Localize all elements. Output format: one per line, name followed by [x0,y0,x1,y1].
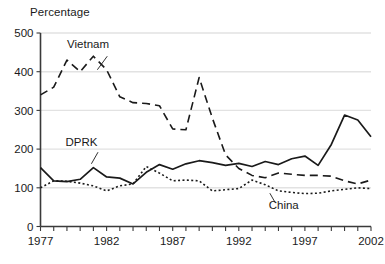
series-label-vietnam: Vietnam [67,38,109,50]
y-tick-label-300: 300 [14,105,33,117]
y-tick-label-500: 500 [14,27,33,39]
series-group [41,56,372,193]
y-tick-labels-group: 0100200300400500 [14,27,33,233]
x-tick-label-1997: 1997 [292,235,318,247]
y-tick-label-0: 0 [27,221,33,233]
tickmarks-group [37,33,372,231]
x-tick-label-1992: 1992 [226,235,252,247]
leader-line-dprk [91,152,98,164]
series-label-china: China [269,199,300,211]
x-tick-label-2002: 2002 [358,235,384,247]
line-chart-plot: 0100200300400500 19771982198719921997200… [0,0,385,264]
gridlines-group [41,33,372,188]
series-line-vietnam [41,56,372,184]
x-tick-labels-group: 197719821987199219972002 [28,235,384,247]
x-tick-label-1977: 1977 [28,235,54,247]
y-tick-label-100: 100 [14,182,33,194]
axes-group [41,33,372,227]
x-tick-label-1982: 1982 [94,235,120,247]
chart-container: Percentage 0100200300400500 197719821987… [0,0,385,264]
series-label-dprk: DPRK [66,136,98,148]
y-tick-label-400: 400 [14,66,33,78]
y-tick-label-200: 200 [14,143,33,155]
x-tick-label-1987: 1987 [160,235,186,247]
leader-line-vietnam [97,56,107,70]
